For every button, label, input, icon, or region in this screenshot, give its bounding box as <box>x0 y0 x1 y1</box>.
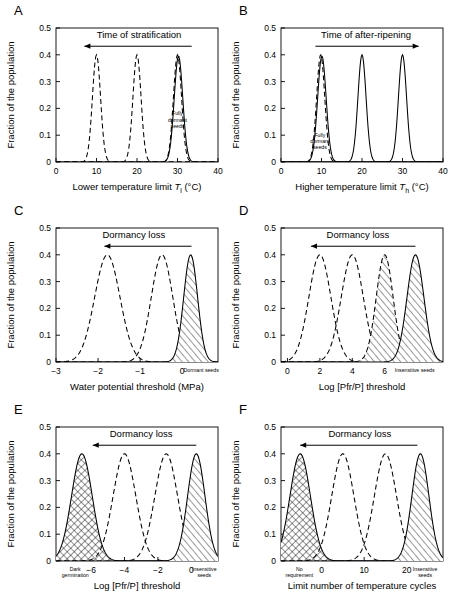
y-axis-title: Fraction of the population <box>230 440 241 547</box>
y-tick-label: 0.5 <box>264 422 276 432</box>
x-axis-title: Log [Pfr/P] threshold <box>319 381 406 392</box>
axes-frame <box>56 28 218 162</box>
x-tick-label: 40 <box>438 166 448 176</box>
curve-inline-label: dormant <box>310 138 330 144</box>
curve-inline-label: Fully <box>172 110 183 116</box>
y-tick-label: 0.4 <box>264 449 276 459</box>
y-tick-label: 0.4 <box>264 249 276 259</box>
curve-inline-label: seeds <box>313 144 327 150</box>
y-tick-label: 0 <box>46 157 51 167</box>
axis-end-label: seeds <box>197 572 211 578</box>
x-tick-label: 10 <box>92 166 102 176</box>
plot-area-d: 00.10.20.30.40.50246Insensitive seedsDor… <box>225 200 450 399</box>
y-axis-title: Fraction of the population <box>230 41 241 148</box>
y-tick-label: 0 <box>271 556 276 566</box>
y-tick-label: 0.5 <box>264 223 276 233</box>
y-tick-label: 0.3 <box>264 476 276 486</box>
x-tick-label: 20 <box>132 166 142 176</box>
curve-stratified-late <box>56 55 218 162</box>
axes-frame <box>281 28 443 162</box>
annotation-text: Dormancy loss <box>327 228 390 239</box>
y-axis-title: Fraction of the population <box>5 241 16 348</box>
x-tick-label: 10 <box>317 166 327 176</box>
y-tick-label: 0.3 <box>264 77 276 87</box>
plot-area-a: 00.10.20.30.40.5010203040Time of stratif… <box>0 0 225 199</box>
annotation-arrow-head <box>300 443 306 448</box>
y-tick-label: 0.3 <box>39 476 51 486</box>
x-axis-title: Limit number of temperature cycles <box>288 580 437 591</box>
x-tick-label: 0 <box>319 565 324 575</box>
y-tick-label: 0.5 <box>39 422 51 432</box>
x-tick-label: −2 <box>93 366 103 376</box>
x-tick-label: 4 <box>350 366 355 376</box>
curve-after-ripened-late <box>281 55 443 162</box>
axis-end-label: requirement <box>285 572 313 578</box>
x-tick-label: 0 <box>279 166 284 176</box>
curve-inline-label: Fully <box>314 132 325 138</box>
y-tick-label: 0.5 <box>39 223 51 233</box>
panel-f: F00.10.20.30.40.501020NorequirementInsen… <box>225 399 450 598</box>
y-tick-label: 0.1 <box>39 130 51 140</box>
annotation-text: Time of stratification <box>97 29 182 40</box>
plot-area-e: 00.10.20.30.40.5−6−4−20DarkgerminationIn… <box>0 399 225 598</box>
y-tick-label: 0 <box>46 556 51 566</box>
x-tick-label: 10 <box>359 565 369 575</box>
curve-fill-insensitive-seeds <box>281 254 443 361</box>
y-tick-label: 0 <box>271 357 276 367</box>
x-tick-label: 20 <box>402 565 412 575</box>
curve-fully-dormant-dashed <box>56 55 218 162</box>
y-tick-label: 0.4 <box>39 249 51 259</box>
y-axis-title: Fraction of the population <box>230 241 241 348</box>
plot-area-b: 00.10.20.30.40.5010203040Time of after-r… <box>225 0 450 199</box>
annotation-arrow-head <box>104 243 110 248</box>
axis-end-label: germination <box>62 572 89 578</box>
x-tick-label: 0 <box>54 166 59 176</box>
y-tick-label: 0.2 <box>264 303 276 313</box>
x-tick-label: 30 <box>173 166 183 176</box>
annotation-text: Dormancy loss <box>110 428 173 439</box>
annotation-text: Dormancy loss <box>328 428 391 439</box>
curve-fully-dormant-solid <box>56 56 218 162</box>
x-tick-label: 6 <box>382 366 387 376</box>
x-axis-title: Log [Pfr/P] threshold <box>94 580 181 591</box>
curve-inline-label: seeds <box>171 123 185 129</box>
x-tick-label: −3 <box>51 366 61 376</box>
y-tick-label: 0.4 <box>39 449 51 459</box>
x-axis-title: Lower temperature limit Tl (°C) <box>73 181 202 194</box>
annotation-text: Time of after-ripening <box>321 29 411 40</box>
y-tick-label: 0.1 <box>264 330 276 340</box>
y-tick-label: 0.1 <box>39 529 51 539</box>
y-tick-label: 0.4 <box>264 50 276 60</box>
y-tick-label: 0.1 <box>39 330 51 340</box>
x-tick-label: −2 <box>153 565 163 575</box>
y-tick-label: 0.2 <box>39 502 51 512</box>
panel-d: D00.10.20.30.40.50246Insensitive seedsDo… <box>225 200 450 399</box>
curve-fill-dormant-seeds <box>56 254 218 361</box>
annotation-arrow-head <box>413 44 419 49</box>
y-tick-label: 0.3 <box>39 276 51 286</box>
y-tick-label: 0.1 <box>264 529 276 539</box>
panel-c: C00.10.20.30.40.5−3−2−10Dormant seedsDor… <box>0 200 225 399</box>
x-tick-label: 0 <box>285 366 290 376</box>
y-tick-label: 0.2 <box>39 103 51 113</box>
x-tick-label: 2 <box>318 366 323 376</box>
y-tick-label: 0.5 <box>264 23 276 33</box>
curve-after-ripened-mid <box>281 55 443 162</box>
y-tick-label: 0.2 <box>264 103 276 113</box>
annotation-arrow-head <box>84 44 90 49</box>
annotation-text: Dormancy loss <box>102 228 165 239</box>
curve-inline-label: dormant <box>168 117 188 123</box>
curve-fully-dormant-solid <box>281 56 443 162</box>
x-tick-label: 40 <box>213 166 223 176</box>
y-tick-label: 0.5 <box>39 23 51 33</box>
y-tick-label: 0.3 <box>264 276 276 286</box>
annotation-arrow-head <box>311 243 317 248</box>
axis-end-label: seeds <box>418 572 432 578</box>
curve-stratified-mid <box>56 55 218 162</box>
x-axis-title: Higher temperature limit Th (°C) <box>295 181 428 194</box>
y-axis-title: Fraction of the population <box>5 440 16 547</box>
x-tick-label: 20 <box>357 166 367 176</box>
x-tick-label: −1 <box>135 366 145 376</box>
panel-e: E00.10.20.30.40.5−6−4−20DarkgerminationI… <box>0 399 225 598</box>
axis-end-label: Dormant seeds <box>184 367 220 373</box>
